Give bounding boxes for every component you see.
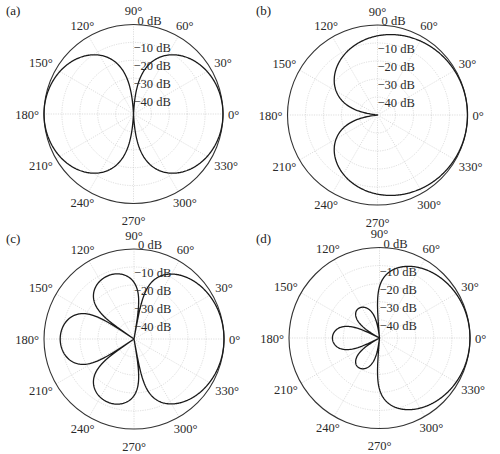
angle-tick-label: 180°: [15, 333, 39, 347]
angle-tick-label: 60°: [176, 19, 194, 33]
panel-label-d: (d): [256, 231, 271, 247]
radial-tick-label: −30 dB: [380, 301, 417, 315]
angle-tick-label: 300°: [417, 198, 441, 212]
angle-tick-label: 120°: [314, 19, 338, 33]
angle-tick-label: 330°: [459, 160, 483, 174]
radial-tick-label: −10 dB: [134, 266, 171, 280]
angle-tick-label: 150°: [29, 281, 53, 295]
radial-tick-label: −40 dB: [134, 95, 171, 109]
angle-tick-label: 60°: [423, 242, 441, 256]
angle-tick-label: 240°: [316, 421, 340, 435]
angle-tick-label: 120°: [71, 243, 95, 257]
angle-tick-label: 180°: [260, 332, 284, 346]
angle-tick-label: 240°: [314, 198, 338, 212]
angle-tick-label: 30°: [459, 57, 477, 71]
panel-label-a: (a): [6, 3, 20, 19]
radial-tick-label: −40 dB: [134, 320, 171, 334]
radial-tick-label: −40 dB: [380, 319, 417, 333]
panel-label-c: (c): [6, 231, 20, 247]
radial-tick-label: −30 dB: [134, 77, 171, 91]
angle-tick-label: 300°: [173, 196, 197, 210]
angle-tick-label: 0°: [228, 108, 239, 122]
radial-tick-label: 0 dB: [138, 14, 162, 28]
angle-tick-label: 120°: [316, 242, 340, 256]
radial-tick-label: −10 dB: [134, 41, 171, 55]
polar-panel-d: 0°30°60°90°120°150°180°210°240°270°300°3…: [260, 227, 486, 453]
radial-tick-label: 0 dB: [382, 14, 406, 28]
angle-tick-label: 300°: [419, 421, 443, 435]
angle-tick-label: 60°: [177, 243, 195, 257]
angle-tick-label: 330°: [214, 159, 238, 173]
radial-tick-label: −40 dB: [378, 96, 415, 110]
angle-tick-label: 30°: [214, 56, 232, 70]
angle-tick-label: 150°: [273, 57, 297, 71]
panel-label-b: (b): [256, 3, 271, 19]
angle-tick-label: 270°: [122, 214, 146, 228]
angle-tick-label: 60°: [420, 19, 438, 33]
angle-tick-label: 300°: [174, 422, 198, 436]
angle-tick-label: 270°: [368, 439, 392, 453]
angle-tick-label: 210°: [274, 383, 298, 397]
angle-tick-label: 30°: [461, 280, 479, 294]
angle-tick-label: 210°: [29, 384, 53, 398]
radial-tick-label: −20 dB: [378, 60, 415, 74]
radial-tick-label: −30 dB: [378, 78, 415, 92]
angle-tick-label: 330°: [461, 383, 485, 397]
angle-tick-label: 240°: [71, 422, 95, 436]
angle-tick-label: 330°: [215, 384, 239, 398]
polar-panel-b: 0°30°60°90°120°150°180°210°240°270°300°3…: [259, 5, 484, 230]
polar-panel-a: 0°30°60°90°120°150°180°210°240°270°300°3…: [15, 4, 239, 228]
radial-tick-label: −20 dB: [134, 284, 171, 298]
polar-panel-c: 0°30°60°90°120°150°180°210°240°270°300°3…: [15, 229, 240, 454]
angle-tick-label: 0°: [473, 109, 484, 123]
angle-tick-label: 210°: [273, 160, 297, 174]
radial-tick-label: 0 dB: [384, 237, 408, 251]
radial-tick-label: −10 dB: [380, 265, 417, 279]
radial-tick-label: −20 dB: [380, 283, 417, 297]
radial-tick-label: −10 dB: [378, 42, 415, 56]
radial-tick-label: −20 dB: [134, 59, 171, 73]
angle-tick-label: 210°: [29, 159, 53, 173]
angle-tick-label: 270°: [122, 440, 146, 454]
angle-tick-label: 30°: [215, 281, 233, 295]
angle-tick-label: 0°: [475, 332, 486, 346]
angle-tick-label: 240°: [70, 196, 94, 210]
figure: 0°30°60°90°120°150°180°210°240°270°300°3…: [0, 0, 500, 454]
angle-tick-label: 120°: [70, 19, 94, 33]
radial-tick-label: 0 dB: [138, 238, 162, 252]
radial-tick-label: −30 dB: [134, 302, 171, 316]
angle-tick-label: 150°: [274, 280, 298, 294]
angle-tick-label: 180°: [15, 108, 39, 122]
angle-tick-label: 180°: [259, 109, 283, 123]
polar-plots: 0°30°60°90°120°150°180°210°240°270°300°3…: [0, 0, 500, 454]
angle-tick-label: 0°: [229, 333, 240, 347]
angle-tick-label: 150°: [29, 56, 53, 70]
